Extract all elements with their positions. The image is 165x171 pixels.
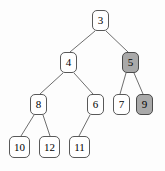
tree-edge [21,115,34,136]
tree-node-11[interactable]: 11 [69,136,90,158]
tree-node-label: 5 [128,57,134,68]
tree-node-8[interactable]: 8 [30,94,47,115]
tree-node-10[interactable]: 10 [9,136,30,158]
tree-edge [79,115,90,136]
tree-edge [43,115,50,136]
tree-edge [134,73,143,94]
binary-tree-figure: 3458679101211 [0,0,165,171]
tree-node-label: 12 [44,141,55,152]
tree-node-7[interactable]: 7 [113,94,130,115]
tree-node-label: 11 [74,141,85,152]
tree-node-12[interactable]: 12 [39,136,60,158]
tree-node-9[interactable]: 9 [136,94,153,115]
tree-node-label: 4 [66,57,72,68]
tree-node-label: 7 [119,99,125,110]
tree-edge [106,31,128,52]
tree-node-label: 8 [36,99,42,110]
tree-edge [74,73,93,94]
tree-edge [40,73,63,94]
tree-node-label: 10 [14,141,25,152]
tree-node-3[interactable]: 3 [92,10,109,31]
tree-node-label: 6 [93,99,99,110]
tree-node-label: 3 [98,15,104,26]
tree-node-6[interactable]: 6 [87,94,104,115]
tree-edge [70,31,95,52]
tree-node-4[interactable]: 4 [60,52,77,73]
tree-edge [120,73,126,94]
tree-node-label: 9 [142,99,148,110]
tree-node-5[interactable]: 5 [122,52,139,73]
